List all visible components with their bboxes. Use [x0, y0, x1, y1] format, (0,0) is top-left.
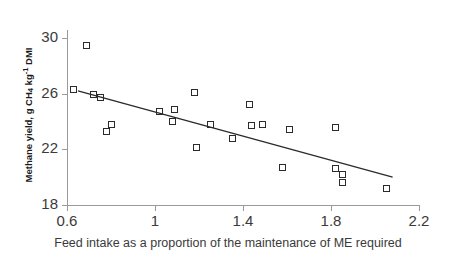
- data-point-marker: [191, 89, 198, 96]
- y-axis-title: Methane yield, g CH4 kg-1 DMI: [21, 25, 35, 205]
- x-tick-label: 1.8: [306, 212, 356, 229]
- data-point-marker: [169, 118, 176, 125]
- data-point-marker: [193, 144, 200, 151]
- data-point-marker: [70, 86, 77, 93]
- data-point-marker: [83, 42, 90, 49]
- x-tick: [331, 206, 332, 211]
- data-point-marker: [286, 126, 293, 133]
- data-point-marker: [97, 94, 104, 101]
- data-point-marker: [279, 164, 286, 171]
- data-point-marker: [383, 185, 390, 192]
- methane-yield-scatter-figure: 18222630 0.611.41.82.2 Methane yield, g …: [0, 0, 456, 262]
- data-point-marker: [259, 121, 266, 128]
- x-tick: [243, 206, 244, 211]
- x-tick: [419, 206, 420, 211]
- x-tick-label: 1: [130, 212, 180, 229]
- data-point-marker: [246, 101, 253, 108]
- data-point-marker: [156, 108, 163, 115]
- x-axis-title: Feed intake as a proportion of the maint…: [0, 236, 456, 250]
- data-point-marker: [229, 135, 236, 142]
- data-point-marker: [207, 121, 214, 128]
- data-point-marker: [171, 106, 178, 113]
- x-tick-label: 0.6: [42, 212, 92, 229]
- x-tick: [155, 206, 156, 211]
- x-tick-label: 2.2: [394, 212, 444, 229]
- x-tick-label: 1.4: [218, 212, 268, 229]
- data-point-marker: [248, 122, 255, 129]
- data-point-marker: [108, 121, 115, 128]
- data-point-marker: [339, 171, 346, 178]
- x-tick: [67, 206, 68, 211]
- data-point-marker: [332, 124, 339, 131]
- data-point-marker: [339, 179, 346, 186]
- data-point-marker: [103, 128, 110, 135]
- plot-area: [67, 30, 419, 205]
